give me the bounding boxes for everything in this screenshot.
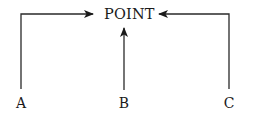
connector-line-a xyxy=(21,14,93,89)
connector-line-c xyxy=(159,14,229,89)
edge-a-to-point xyxy=(21,14,93,89)
source-node-b: B xyxy=(119,96,129,110)
source-node-a: A xyxy=(16,96,26,110)
edge-c-to-point xyxy=(159,14,229,89)
source-node-c: C xyxy=(224,96,235,110)
target-node-point: POINT xyxy=(104,7,155,22)
